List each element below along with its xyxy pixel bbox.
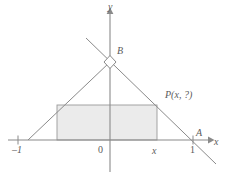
- point-p-label: P(x, ?): [165, 90, 192, 100]
- geometry-figure: y B P(x, ?) A x –1 0 x 1: [0, 0, 225, 178]
- shaded-rectangle: [57, 105, 157, 140]
- point-b-label: B: [117, 46, 123, 56]
- triangle-right-side-extended: [86, 38, 216, 164]
- x-tick-label-one: 1: [190, 145, 195, 155]
- y-axis-label: y: [108, 2, 112, 12]
- point-a-label: A: [196, 128, 202, 138]
- x-axis-label: x: [214, 137, 218, 147]
- x-tick-label-x: x: [152, 146, 156, 156]
- x-tick-label-neg-one: –1: [12, 145, 22, 155]
- x-tick-label-zero: 0: [98, 145, 103, 155]
